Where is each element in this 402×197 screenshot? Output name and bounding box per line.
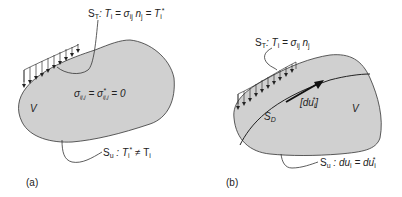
diagram-canvas: ST: Ti = σij nj = Ti* σij,j = σ*ij,j = 0…	[0, 0, 402, 197]
leader-su-b	[281, 154, 318, 168]
caption-b: (b)	[226, 177, 238, 188]
traction-boundary-label-b: ST: Ti = σij nj	[255, 37, 310, 50]
displacement-boundary-label-b: Su : dui = dui*	[320, 156, 376, 169]
leader-su-a	[62, 140, 102, 162]
panel-a: ST: Ti = σij nj = Ti* σij,j = σ*ij,j = 0…	[19, 7, 175, 188]
panel-b: ST: Ti = σij nj [dui*] SD V Su : dui = d…	[226, 37, 381, 188]
displacement-boundary-label-a: Su : Ti* ≠ Ti	[103, 146, 151, 159]
leader-st-b	[265, 48, 277, 70]
traction-boundary-label-a: ST: Ti = σij nj = Ti*	[88, 7, 165, 21]
jump-label-b: [dui*]	[299, 96, 318, 109]
caption-a: (a)	[26, 177, 38, 188]
